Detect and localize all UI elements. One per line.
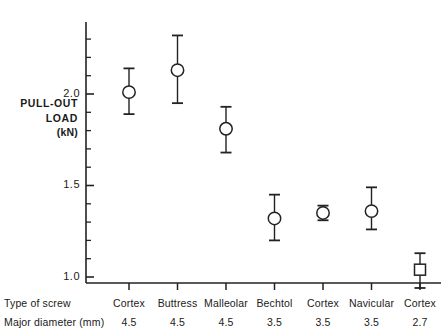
category-screw-type-0: Cortex [113,297,145,309]
category-screw-type-3: Bechtol [256,297,292,309]
row-heading-major-diameter: Major diameter (mm) [4,316,104,328]
category-screw-type-5: Navicular [349,297,394,309]
data-point-3 [268,195,280,241]
category-screw-type-4: Cortex [307,297,339,309]
marker-circle-5 [365,205,377,217]
y-axis-ticks [86,39,94,277]
row-heading-screw-type: Type of screw [4,297,71,309]
pull-out-load-chart: PULL-OUT LOAD (kN) 2.0 1.5 1.0 Type of s… [0,0,445,335]
marker-square-6 [415,264,426,275]
axes [86,22,441,283]
data-point-4 [317,206,329,221]
plot-area [0,0,445,335]
category-diameter-0: 4.5 [121,316,136,328]
category-screw-type-6: Cortex [404,297,436,309]
x-axis-ticks [129,283,420,290]
marker-circle-4 [317,207,329,219]
category-diameter-1: 4.5 [170,316,185,328]
category-diameter-4: 3.5 [315,316,330,328]
data-series [123,35,426,288]
data-point-1 [171,35,183,103]
marker-circle-3 [268,212,280,224]
marker-circle-1 [171,64,183,76]
category-diameter-2: 4.5 [218,316,233,328]
data-point-0 [123,68,135,114]
category-diameter-5: 3.5 [364,316,379,328]
data-point-5 [365,187,377,229]
data-point-2 [220,107,232,153]
category-diameter-6: 2.7 [412,316,427,328]
marker-circle-2 [220,123,232,135]
marker-circle-0 [123,86,135,98]
category-screw-type-1: Buttress [158,297,198,309]
category-diameter-3: 3.5 [267,316,282,328]
category-screw-type-2: Malleolar [204,297,248,309]
